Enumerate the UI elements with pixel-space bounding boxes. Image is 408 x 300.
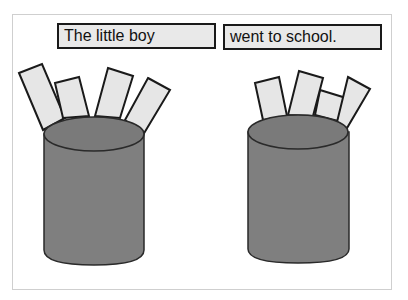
sentence-box-predicate: went to school. [223,24,382,50]
cup-body [44,134,144,265]
cup-rim [44,117,144,151]
sentence-box-subject: The little boy [57,23,216,49]
cup-body [248,132,349,263]
cup-rim [248,115,348,149]
right-cup[interactable] [248,115,349,263]
left-cup[interactable] [44,117,144,265]
sentence-part-1: The little boy [64,27,155,44]
word-card[interactable] [255,77,287,120]
word-card[interactable] [337,77,370,128]
word-card[interactable] [95,68,133,118]
sentence-part-2: went to school. [230,28,337,45]
